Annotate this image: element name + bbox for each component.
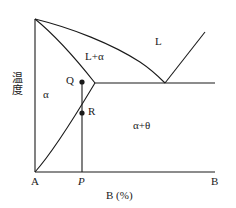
- point-marker-r: [79, 110, 84, 115]
- axis-label-b: B: [211, 176, 218, 187]
- region-label-alpha-theta: α+θ: [133, 120, 150, 131]
- region-label-liquid-alpha: L+α: [85, 51, 104, 62]
- axis-tick-label-p: P: [78, 176, 85, 187]
- point-label-q: Q: [66, 75, 74, 86]
- phase-diagram: α L+α L α+θ Q R A P B B (%) 温度: [0, 0, 236, 208]
- liquidus-right-curve: [165, 32, 205, 83]
- region-label-liquid: L: [155, 36, 162, 47]
- x-axis-title: B (%): [106, 190, 133, 201]
- y-axis-title: 温度: [11, 72, 22, 96]
- point-label-r: R: [88, 106, 95, 117]
- point-marker-q: [79, 79, 84, 84]
- region-label-alpha: α: [43, 89, 49, 100]
- axis-label-a: A: [31, 176, 39, 187]
